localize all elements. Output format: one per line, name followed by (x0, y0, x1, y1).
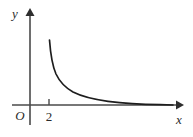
x-tick-label-2: 2 (46, 109, 53, 124)
hyperbolic-decay-curve (50, 40, 174, 105)
y-axis-arrowhead-icon (26, 8, 35, 16)
x-axis-arrowhead-icon (176, 101, 184, 110)
y-axis-label: y (10, 6, 18, 21)
origin-label: O (15, 108, 25, 123)
hyperbolic-curve-figure: y x O 2 (0, 0, 193, 137)
x-axis-label: x (175, 112, 182, 127)
figure-canvas: y x O 2 (0, 0, 193, 137)
